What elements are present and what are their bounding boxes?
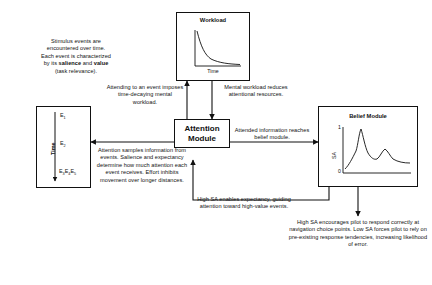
note-line: Each event is characterized — [41, 53, 111, 59]
events-timeline-box[interactable]: Time E1 E2 E3E4E5 — [36, 106, 91, 188]
note-line: Stimulus events are — [51, 38, 101, 44]
event-label-e2: E2 — [60, 140, 66, 148]
emphasis-value: value — [94, 60, 109, 66]
belief-module-box[interactable]: Belief Module 1 0 SA — [318, 106, 418, 187]
workload-xaxis-label: Time — [177, 68, 249, 74]
note-stimulus-events: Stimulus events are encountered over tim… — [8, 38, 144, 75]
note-line: by its — [44, 60, 59, 66]
note-line: (task relevance). — [55, 68, 97, 74]
belief-chart — [319, 107, 419, 188]
note-line: and — [81, 60, 94, 66]
note-attended-information: Attended information reaches belief modu… — [229, 127, 315, 142]
note-line: encountered over time. — [47, 45, 105, 51]
arrow-belief-to-attention-feedback — [193, 160, 329, 200]
emphasis-salience: salience — [59, 60, 81, 66]
workload-module-box[interactable]: Workload Time — [176, 12, 250, 81]
belief-ytick-bottom: 0 — [331, 168, 341, 174]
attention-module-label-line1: Attention — [175, 124, 229, 134]
belief-yaxis-label: SA — [331, 152, 337, 159]
note-high-sa-enables: High SA enables expectancy, guiding atte… — [196, 196, 292, 211]
note-attention-samples: Attention samples information from event… — [95, 147, 189, 184]
belief-ytick-top: 1 — [331, 124, 341, 130]
diagram-canvas: Stimulus events are encountered over tim… — [0, 0, 432, 285]
events-time-label: Time — [50, 143, 56, 155]
attention-module-box[interactable]: Attention Module — [174, 119, 230, 148]
event-label-e345: E3E4E5 — [59, 168, 76, 176]
note-mental-workload: Mental workload reduces attentional reso… — [218, 84, 294, 99]
event-label-e1: E1 — [60, 112, 66, 120]
note-high-sa-encourages: High SA encourages pilot to respond corr… — [288, 219, 428, 249]
note-attending-to-event: Attending to an event imposes time-decay… — [106, 84, 184, 106]
attention-module-label-line2: Module — [175, 134, 229, 144]
